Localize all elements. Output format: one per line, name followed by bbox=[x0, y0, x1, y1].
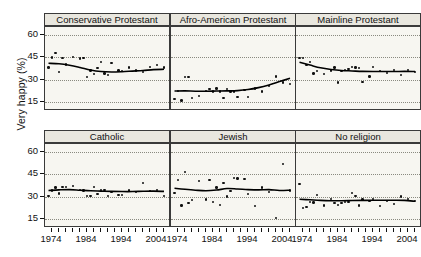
y-tick-label: 45 bbox=[10, 168, 38, 178]
trend-line bbox=[296, 27, 421, 110]
x-tick-label: 1984 bbox=[323, 234, 351, 244]
x-tick-mark bbox=[219, 228, 220, 232]
scatter-panel bbox=[44, 26, 170, 110]
x-tick-mark bbox=[302, 228, 303, 232]
x-tick-mark bbox=[163, 228, 164, 232]
x-tick-mark bbox=[72, 228, 73, 232]
panel-strip-label: Jewish bbox=[170, 130, 296, 143]
x-tick-mark bbox=[135, 228, 136, 232]
x-tick-mark bbox=[289, 228, 290, 232]
trend-line bbox=[45, 27, 170, 110]
y-tick-label: 60 bbox=[10, 29, 38, 39]
panel-strip-label: Mainline Protestant bbox=[295, 13, 421, 26]
x-tick-mark bbox=[156, 228, 157, 232]
x-tick-mark bbox=[58, 228, 59, 232]
scatter-panel bbox=[295, 143, 421, 227]
x-tick-mark bbox=[275, 228, 276, 232]
x-tick-label: 1974 bbox=[163, 234, 191, 244]
x-tick-mark bbox=[86, 228, 87, 232]
trend-line bbox=[171, 144, 296, 227]
y-tick-label: 30 bbox=[10, 191, 38, 201]
y-tick-label: 30 bbox=[10, 74, 38, 84]
x-tick-mark bbox=[226, 228, 227, 232]
x-tick-mark bbox=[309, 228, 310, 232]
trend-line bbox=[45, 144, 170, 227]
x-tick-mark bbox=[247, 228, 248, 232]
x-tick-mark bbox=[65, 228, 66, 232]
plot-area bbox=[296, 144, 420, 226]
x-tick-mark bbox=[191, 228, 192, 232]
x-tick-mark bbox=[344, 228, 345, 232]
panel-strip-label: Afro-American Protestant bbox=[170, 13, 296, 26]
x-tick-label: 1984 bbox=[72, 234, 100, 244]
x-tick-mark bbox=[358, 228, 359, 232]
x-tick-mark bbox=[79, 228, 80, 232]
x-tick-label: 1994 bbox=[358, 234, 386, 244]
chart-root: Very happy (%) 6045301560453015197419841… bbox=[0, 0, 421, 257]
x-tick-mark bbox=[107, 228, 108, 232]
x-tick-mark bbox=[261, 228, 262, 232]
x-tick-label: 1984 bbox=[198, 234, 226, 244]
x-tick-mark bbox=[121, 228, 122, 232]
x-tick-mark bbox=[351, 228, 352, 232]
y-tick-label: 15 bbox=[10, 213, 38, 223]
x-tick-mark bbox=[233, 228, 234, 232]
x-tick-mark bbox=[282, 228, 283, 232]
x-tick-mark bbox=[323, 228, 324, 232]
plot-area bbox=[296, 27, 420, 109]
x-tick-mark bbox=[414, 228, 415, 232]
x-tick-mark bbox=[386, 228, 387, 232]
x-tick-mark bbox=[93, 228, 94, 232]
x-tick-label: 1974 bbox=[37, 234, 65, 244]
x-tick-mark bbox=[114, 228, 115, 232]
y-tick-label: 45 bbox=[10, 51, 38, 61]
y-tick-label: 15 bbox=[10, 96, 38, 106]
plot-area bbox=[171, 27, 295, 109]
plot-area bbox=[45, 27, 169, 109]
trend-line bbox=[171, 27, 296, 110]
x-tick-mark bbox=[407, 228, 408, 232]
x-tick-mark bbox=[330, 228, 331, 232]
x-tick-mark bbox=[316, 228, 317, 232]
scatter-panel bbox=[295, 26, 421, 110]
x-tick-mark bbox=[142, 228, 143, 232]
trend-line bbox=[296, 144, 421, 227]
scatter-panel bbox=[170, 26, 296, 110]
plot-area bbox=[171, 144, 295, 226]
x-tick-mark bbox=[240, 228, 241, 232]
panel-strip-label: Conservative Protestant bbox=[44, 13, 170, 26]
x-tick-label: 1994 bbox=[107, 234, 135, 244]
scatter-panel bbox=[44, 143, 170, 227]
x-tick-mark bbox=[393, 228, 394, 232]
plot-area bbox=[45, 144, 169, 226]
y-tick-label: 60 bbox=[10, 146, 38, 156]
x-tick-mark bbox=[149, 228, 150, 232]
x-tick-label: 1994 bbox=[233, 234, 261, 244]
panel-strip-label: No religion bbox=[295, 130, 421, 143]
panel-strip-label: Catholic bbox=[44, 130, 170, 143]
x-tick-mark bbox=[128, 228, 129, 232]
x-tick-mark bbox=[400, 228, 401, 232]
x-tick-mark bbox=[51, 228, 52, 232]
x-tick-mark bbox=[379, 228, 380, 232]
scatter-panel bbox=[170, 143, 296, 227]
x-tick-mark bbox=[177, 228, 178, 232]
x-tick-mark bbox=[198, 228, 199, 232]
x-tick-label: 2004 bbox=[393, 234, 421, 244]
x-tick-mark bbox=[268, 228, 269, 232]
x-tick-mark bbox=[372, 228, 373, 232]
x-tick-mark bbox=[254, 228, 255, 232]
x-tick-mark bbox=[184, 228, 185, 232]
x-tick-mark bbox=[365, 228, 366, 232]
x-tick-label: 1974 bbox=[288, 234, 316, 244]
x-tick-mark bbox=[337, 228, 338, 232]
x-tick-mark bbox=[205, 228, 206, 232]
x-tick-mark bbox=[100, 228, 101, 232]
x-tick-mark bbox=[212, 228, 213, 232]
